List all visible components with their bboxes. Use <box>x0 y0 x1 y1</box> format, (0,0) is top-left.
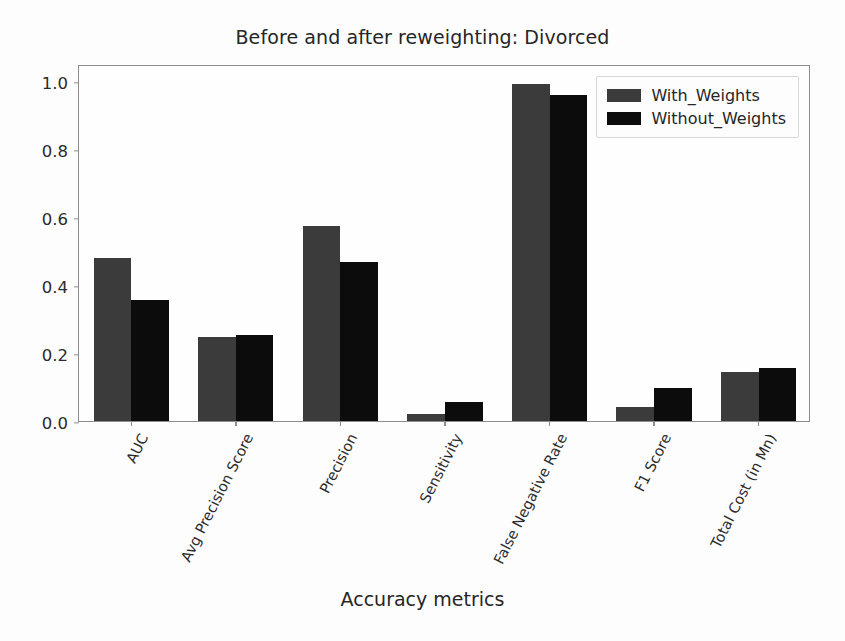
x-axis-tick-label: Total Cost (in Mn) <box>707 431 779 551</box>
legend-item: With_Weights <box>607 84 786 107</box>
bar-with-weights <box>198 337 236 421</box>
plot-area: With_WeightsWithout_Weights 0.00.20.40.6… <box>78 65 810 422</box>
chart-figure: Before and after reweighting: Divorced W… <box>0 0 845 641</box>
y-axis-tick-mark <box>74 354 79 355</box>
y-axis-tick-label: 0.2 <box>8 346 79 365</box>
y-axis-tick-mark <box>74 150 79 151</box>
x-axis-tick-mark <box>235 421 236 426</box>
bar-without-weights <box>340 262 378 421</box>
x-axis-tick-label: Sensitivity <box>417 431 466 506</box>
legend-item: Without_Weights <box>607 107 786 130</box>
bar-without-weights <box>654 388 692 421</box>
legend-swatch-icon <box>607 112 641 125</box>
bar-without-weights <box>131 300 169 421</box>
x-axis-tick-mark <box>758 421 759 426</box>
y-axis-tick-mark <box>74 422 79 423</box>
y-axis-tick-mark <box>74 286 79 287</box>
bar-with-weights <box>303 226 341 422</box>
chart-legend: With_WeightsWithout_Weights <box>596 76 799 138</box>
y-axis-tick-label: 0.8 <box>8 142 79 161</box>
legend-label: With_Weights <box>651 86 759 105</box>
bar-with-weights <box>721 372 759 421</box>
bar-with-weights <box>616 407 654 421</box>
bar-without-weights <box>550 95 588 421</box>
x-axis-tick-label: Avg Precision Score <box>178 431 256 564</box>
x-axis-tick-mark <box>444 421 445 426</box>
x-axis-tick-label: F1 Score <box>632 431 675 494</box>
x-axis-tick-mark <box>340 421 341 426</box>
x-axis-tick-label: False Negative Rate <box>490 431 570 567</box>
bar-with-weights <box>94 258 132 421</box>
bar-without-weights <box>759 368 797 421</box>
bar-with-weights <box>512 84 550 421</box>
legend-label: Without_Weights <box>651 109 786 128</box>
y-axis-tick-label: 0.0 <box>8 414 79 433</box>
y-axis-tick-mark <box>74 82 79 83</box>
x-axis-label: Accuracy metrics <box>0 588 845 610</box>
y-axis-tick-label: 0.4 <box>8 278 79 297</box>
x-axis-tick-mark <box>549 421 550 426</box>
x-axis-tick-mark <box>653 421 654 426</box>
legend-swatch-icon <box>607 89 641 102</box>
bar-without-weights <box>236 335 274 421</box>
y-axis-tick-label: 1.0 <box>8 74 79 93</box>
bar-without-weights <box>445 402 483 421</box>
x-axis-tick-label: AUC <box>123 431 151 466</box>
bar-with-weights <box>407 414 445 421</box>
x-axis-tick-label: Precision <box>317 431 361 496</box>
x-axis-tick-mark <box>131 421 132 426</box>
y-axis-tick-label: 0.6 <box>8 210 79 229</box>
y-axis-tick-mark <box>74 218 79 219</box>
chart-title: Before and after reweighting: Divorced <box>0 26 845 48</box>
